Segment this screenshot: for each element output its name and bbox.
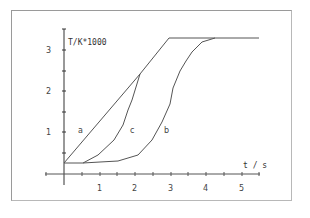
y-axis-label: T/K*1000	[68, 38, 107, 47]
x-tick-label-5: 5	[239, 184, 244, 193]
x-tick-label-4: 4	[203, 184, 208, 193]
axes	[45, 29, 260, 185]
chart-plot: 1 2 3 1 2 3 4 5 T/K*1000 t / s a c b	[0, 0, 310, 218]
curve-a	[64, 38, 259, 163]
curve-b	[83, 38, 215, 163]
x-tick-label-3: 3	[168, 184, 173, 193]
x-tick-label-2: 2	[132, 184, 137, 193]
y-tick-label-2: 2	[46, 87, 51, 96]
y-tick-label-3: 3	[46, 46, 51, 55]
curve-label-c: c	[130, 126, 134, 135]
y-tick-label-1: 1	[46, 128, 51, 137]
curve-label-a: a	[78, 126, 83, 135]
x-axis-label: t / s	[243, 161, 267, 170]
curve-label-b: b	[164, 126, 169, 135]
x-tick-label-1: 1	[97, 184, 102, 193]
